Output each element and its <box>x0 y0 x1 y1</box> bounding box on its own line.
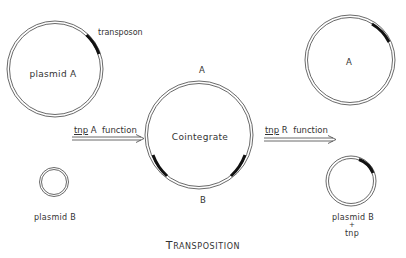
tnp-a-function-label: tnp A function <box>74 125 137 135</box>
result-tnp-label: tnp <box>345 229 359 238</box>
tnp-a-arrow <box>72 135 144 143</box>
transposon-segment <box>87 35 100 54</box>
result-plasmid-b-circle <box>326 156 376 206</box>
plasmid-a-label: plasmid A <box>29 69 76 79</box>
cointegrate-top-label: A <box>199 65 205 75</box>
cointegrate-bottom-label: B <box>200 195 206 205</box>
diagram-title: Transposition <box>166 239 240 252</box>
tnp-a-function-text: A function <box>88 125 137 135</box>
tnp-r-function-label: tnp R function <box>265 125 328 135</box>
cointegrate-label: Cointegrate <box>172 132 228 142</box>
transposon-label: transposon <box>98 28 143 37</box>
result-a-label: A <box>346 57 352 67</box>
tnp-r-arrow <box>264 136 336 144</box>
plasmid-b-label: plasmid B <box>34 213 76 222</box>
transposon-insert <box>359 160 373 174</box>
tnp-a-gene: tnp <box>74 125 88 135</box>
tnp-r-function-text: R function <box>279 125 328 135</box>
tnp-r-gene: tnp <box>265 125 279 135</box>
plasmid-b-circle <box>40 168 69 197</box>
